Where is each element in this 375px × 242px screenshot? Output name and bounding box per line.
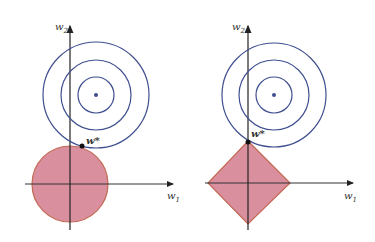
w2-label: w2 [232,21,246,35]
optimum-label: w* [86,135,101,146]
left-panel-l2: w* w2 w1 [25,21,180,230]
w1-label: w1 [167,190,180,204]
w1-label: w1 [344,190,357,204]
optimum-label: w* [251,128,266,139]
optimum-point [80,144,85,149]
contour-center-dot [94,93,98,97]
regularization-diagram: w* w2 w1 w* w2 w1 [0,0,375,242]
w2-label: w2 [55,21,69,35]
optimum-point [246,140,251,145]
contour-center-dot [272,93,276,97]
right-panel-l1: w* w2 w1 [205,21,357,230]
